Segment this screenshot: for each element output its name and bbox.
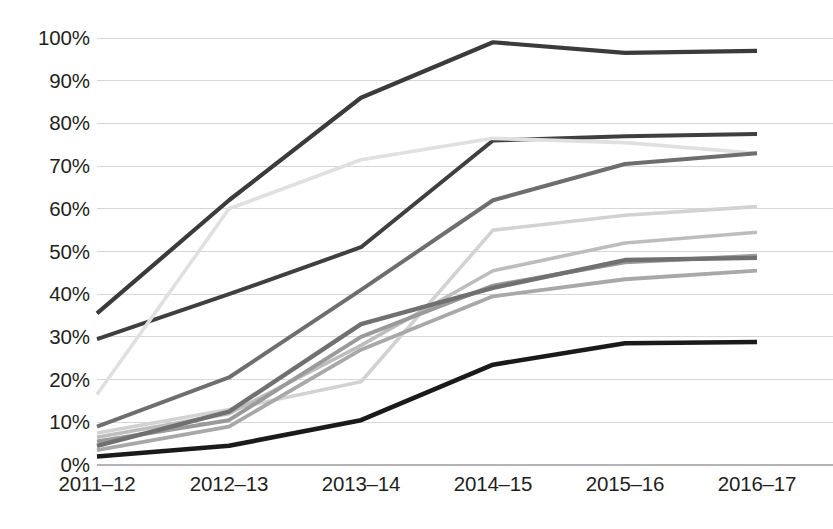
x-tick-label: 2012–13 xyxy=(190,472,268,496)
x-tick-label: 2014–15 xyxy=(454,472,532,496)
x-tick-label: 2011–12 xyxy=(59,472,136,496)
x-tick-label: 2015–16 xyxy=(586,472,664,496)
line-chart: 100%90%80%70%60%50%40%30%20%10%0% 2011–1… xyxy=(0,0,833,529)
x-tick-label: 2016–17 xyxy=(718,472,796,496)
x-tick-label: 2013–14 xyxy=(322,472,400,496)
x-axis: 2011–122012–132013–142014–152015–162016–… xyxy=(0,0,833,529)
